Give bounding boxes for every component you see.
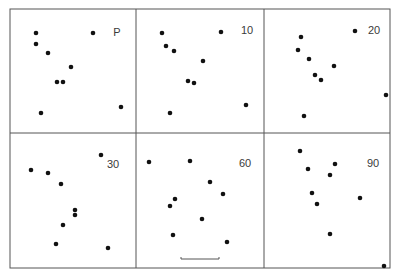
data-dot (160, 31, 165, 36)
panels: P1020306090 (29, 24, 389, 268)
data-dot (328, 173, 333, 178)
data-dot (61, 223, 66, 228)
data-dot (298, 149, 303, 154)
data-dot (221, 192, 226, 197)
data-dot (188, 159, 193, 164)
data-dot (225, 240, 230, 245)
data-dot (172, 49, 177, 54)
panel-p: P (34, 26, 124, 115)
data-dot (192, 81, 197, 86)
data-dot (200, 217, 205, 222)
data-dot (119, 105, 124, 110)
data-dot (313, 73, 318, 78)
panel-label: 10 (241, 24, 253, 36)
data-dot (296, 48, 301, 53)
data-dot (164, 44, 169, 49)
data-dot (54, 242, 59, 247)
scale-bar (181, 257, 219, 259)
data-dot (382, 264, 387, 269)
data-dot (55, 80, 60, 85)
dot-panel-figure: P1020306090 (0, 0, 398, 279)
data-dot (302, 114, 307, 119)
data-dot (186, 79, 191, 84)
data-dot (333, 162, 338, 167)
data-dot (34, 42, 39, 47)
data-dot (73, 208, 78, 213)
data-dot (307, 57, 312, 62)
data-dot (73, 213, 78, 218)
data-dot (171, 233, 176, 238)
panel-label: P (113, 26, 120, 38)
data-dot (34, 31, 39, 36)
data-dot (244, 103, 249, 108)
data-dot (310, 191, 315, 196)
panel-90: 90 (298, 149, 387, 269)
panel-label: 30 (107, 158, 119, 170)
data-dot (306, 167, 311, 172)
data-dot (299, 35, 304, 40)
data-dot (168, 111, 173, 116)
outer-frame (10, 9, 390, 268)
data-dot (319, 78, 324, 83)
panel-label: 60 (239, 157, 251, 169)
panel-label: 90 (367, 157, 379, 169)
scale-bar-line (181, 257, 219, 259)
figure-canvas: P1020306090 (0, 0, 398, 279)
data-dot (29, 168, 34, 173)
data-dot (358, 196, 363, 201)
panel-10: 10 (160, 24, 253, 115)
data-dot (61, 80, 66, 85)
panel-20: 20 (296, 24, 389, 118)
data-dot (91, 31, 96, 36)
data-dot (332, 64, 337, 69)
data-dot (201, 59, 206, 64)
data-dot (173, 197, 178, 202)
data-dot (384, 93, 389, 98)
data-dot (315, 202, 320, 207)
data-dot (59, 182, 64, 187)
panel-30: 30 (29, 153, 119, 251)
data-dot (69, 65, 74, 70)
data-dot (168, 204, 173, 209)
data-dot (219, 30, 224, 35)
panel-60: 60 (147, 157, 251, 244)
panel-dividers (10, 9, 390, 268)
data-dot (106, 246, 111, 251)
data-dot (39, 111, 44, 116)
data-dot (46, 171, 51, 176)
data-dot (208, 180, 213, 185)
data-dot (99, 153, 104, 158)
data-dot (147, 160, 152, 165)
data-dot (353, 29, 358, 34)
data-dot (46, 51, 51, 56)
panel-label: 20 (368, 24, 380, 36)
data-dot (328, 232, 333, 237)
